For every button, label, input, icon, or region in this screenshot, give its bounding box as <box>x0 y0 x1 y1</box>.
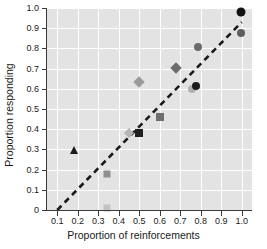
x-tick-label-7: 0.8 <box>195 216 208 226</box>
y-tick-label-8: 0.8 <box>26 43 39 53</box>
reference-line-path <box>57 22 242 210</box>
x-tick-label-1: 0.2 <box>72 216 85 226</box>
y-tick-label-10: 1.0 <box>26 3 39 13</box>
y-tick-mark-9 <box>42 28 47 29</box>
y-tick-label-4: 0.4 <box>26 124 39 134</box>
y-tick-mark-0 <box>42 210 47 211</box>
data-point-0 <box>70 146 78 154</box>
data-point-2 <box>103 171 110 178</box>
x-tick-label-3: 0.4 <box>113 216 126 226</box>
x-tick-label-6: 0.7 <box>174 216 187 226</box>
y-tick-label-2: 0.2 <box>26 165 39 175</box>
y-tick-label-3: 0.3 <box>26 144 39 154</box>
scatter-plot-figure: 00.10.20.30.40.50.60.70.80.91.0 0.10.20.… <box>0 0 267 249</box>
y-tick-mark-3 <box>42 149 47 150</box>
y-tick-label-0: 0 <box>34 205 39 215</box>
y-tick-mark-5 <box>42 109 47 110</box>
x-axis-title: Proportion of reinforcements <box>0 229 267 241</box>
data-point-12 <box>236 8 245 17</box>
reference-line <box>47 8 252 210</box>
y-tick-label-5: 0.5 <box>26 104 39 114</box>
y-tick-mark-10 <box>42 8 47 9</box>
y-axis-title: Proportion responding <box>3 50 15 180</box>
y-tick-label-9: 0.9 <box>26 23 39 33</box>
y-tick-mark-7 <box>42 69 47 70</box>
x-tick-label-2: 0.3 <box>92 216 105 226</box>
x-tick-label-0: 0.1 <box>51 216 64 226</box>
data-point-9 <box>192 82 200 90</box>
y-tick-label-6: 0.6 <box>26 84 39 94</box>
data-point-4 <box>135 129 143 137</box>
y-tick-mark-1 <box>42 190 47 191</box>
x-tick-label-5: 0.6 <box>154 216 167 226</box>
y-tick-mark-4 <box>42 129 47 130</box>
x-tick-label-9: 1.0 <box>236 216 249 226</box>
y-tick-mark-2 <box>42 170 47 171</box>
data-point-10 <box>194 43 202 51</box>
data-point-6 <box>156 113 164 121</box>
data-point-11 <box>237 29 245 37</box>
x-tick-label-8: 0.9 <box>215 216 228 226</box>
plot-area <box>47 8 252 210</box>
x-tick-label-4: 0.5 <box>133 216 146 226</box>
y-tick-label-7: 0.7 <box>26 64 39 74</box>
y-tick-mark-8 <box>42 48 47 49</box>
y-tick-label-1: 0.1 <box>26 185 39 195</box>
y-tick-mark-6 <box>42 89 47 90</box>
